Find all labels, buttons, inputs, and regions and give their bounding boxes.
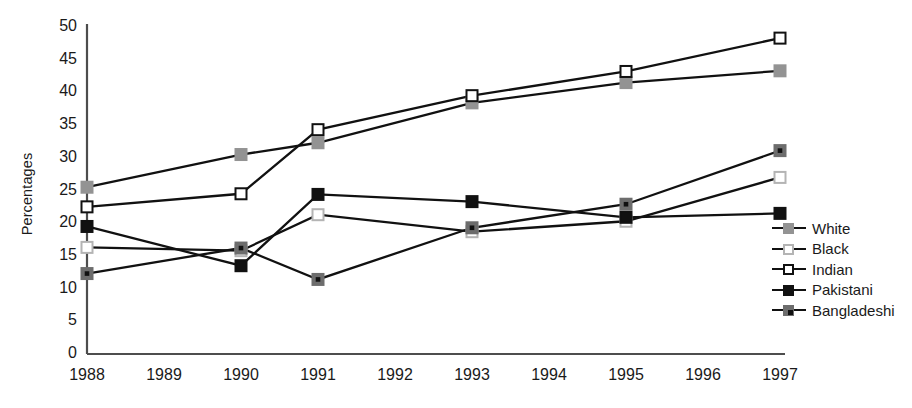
legend-marker-white-icon	[772, 221, 806, 235]
legend-item-white[interactable]: White	[772, 218, 912, 239]
data-point-bangladeshi-1991	[313, 274, 324, 285]
data-point-pakistani-1988	[82, 221, 93, 232]
plot-area	[0, 0, 912, 408]
data-point-indian-1990	[236, 188, 247, 199]
data-point-white-1990	[236, 149, 247, 160]
legend-item-black[interactable]: Black	[772, 239, 912, 260]
legend-label-indian: Indian	[806, 261, 853, 278]
data-point-pakistani-1990	[236, 260, 247, 271]
data-point-bangladeshi-1993	[467, 222, 478, 233]
legend-label-pakistani: Pakistani	[806, 281, 873, 298]
series-line-pakistani	[87, 194, 780, 265]
legend-label-black: Black	[806, 240, 849, 257]
data-point-black-1991	[313, 209, 324, 220]
data-point-indian-1997	[775, 33, 786, 44]
legend-label-bangladeshi: Bangladeshi	[806, 302, 895, 319]
legend-marker-pakistani-icon	[772, 283, 806, 297]
series-line-white	[87, 71, 780, 187]
legend-marker-bangladeshi-icon	[772, 303, 806, 317]
legend-marker-indian-icon	[772, 262, 806, 276]
data-point-pakistani-1991	[313, 189, 324, 200]
data-point-pakistani-1995	[621, 212, 632, 223]
legend-label-white: White	[806, 220, 850, 237]
data-point-black-1997	[775, 172, 786, 183]
series-line-indian	[87, 38, 780, 207]
data-point-bangladeshi-1997	[775, 145, 786, 156]
data-point-pakistani-1993	[467, 196, 478, 207]
data-point-bangladeshi-1988	[82, 268, 93, 279]
data-point-white-1988	[82, 182, 93, 193]
data-point-indian-1991	[313, 124, 324, 135]
data-point-white-1997	[775, 65, 786, 76]
legend-item-pakistani[interactable]: Pakistani	[772, 280, 912, 301]
data-point-indian-1995	[621, 66, 632, 77]
data-point-indian-1988	[82, 201, 93, 212]
line-chart: Percentages 05101520253035404550 1988198…	[0, 0, 912, 408]
legend-marker-black-icon	[772, 242, 806, 256]
data-point-bangladeshi-1990	[236, 243, 247, 254]
data-point-white-1991	[313, 137, 324, 148]
data-point-black-1988	[82, 242, 93, 253]
data-point-bangladeshi-1995	[621, 199, 632, 210]
data-point-white-1995	[621, 77, 632, 88]
data-point-indian-1993	[467, 90, 478, 101]
legend-item-indian[interactable]: Indian	[772, 259, 912, 280]
legend-item-bangladeshi[interactable]: Bangladeshi	[772, 300, 912, 321]
chart-legend: WhiteBlackIndianPakistaniBangladeshi	[772, 218, 912, 321]
